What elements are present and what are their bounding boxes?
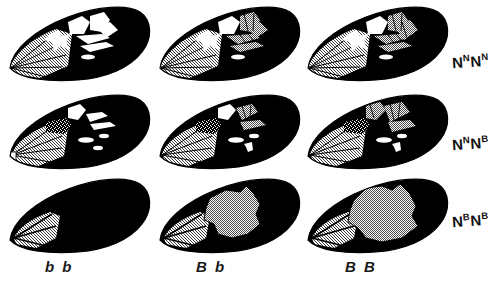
- column-label-2: B b: [196, 258, 226, 275]
- column-label-1: b b: [45, 258, 74, 275]
- row-label-3: NBNB: [451, 211, 489, 231]
- row-label-1: NNNN: [451, 52, 489, 72]
- row-label-3-sup2: B: [481, 210, 489, 221]
- wing-r1c3: [304, 4, 454, 82]
- wing-r1c2: [156, 4, 306, 82]
- wing-r2c2: [156, 92, 306, 170]
- row-label-2: NNNB: [451, 134, 489, 154]
- wing-grid-svg: [0, 0, 503, 281]
- wing-r3c1: [6, 176, 156, 254]
- wing-r3c2: [156, 176, 306, 254]
- wing-r2c3: [304, 92, 454, 170]
- wing-r2c1: [6, 92, 156, 170]
- row-label-2-sup2: B: [481, 133, 489, 144]
- figure-canvas: NNNN NNNB NBNB b b B b B B: [0, 0, 503, 281]
- wing-r1c1: [6, 4, 156, 82]
- column-label-3: B B: [345, 258, 377, 275]
- row-label-1-sup2: N: [481, 51, 489, 62]
- wing-r3c3: [304, 176, 454, 254]
